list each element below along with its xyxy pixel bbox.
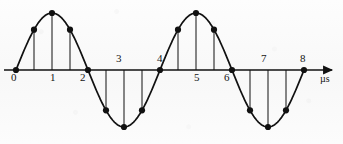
sample-point	[85, 67, 91, 73]
sample-point	[67, 27, 73, 33]
sample-point	[103, 107, 109, 113]
sample-point	[265, 124, 271, 130]
sample-point	[175, 27, 181, 33]
axis-unit-label: µs	[320, 74, 330, 84]
axis-tick-label-4: 4	[157, 53, 163, 64]
sample-point	[211, 27, 217, 33]
sample-point	[247, 107, 253, 113]
axis-tick-label-7: 7	[261, 53, 267, 64]
sample-point	[49, 10, 55, 16]
axis-tick-label-8: 8	[300, 53, 306, 64]
axis-tick-label-6: 6	[224, 72, 230, 83]
axis-tick-label-0: 0	[11, 72, 17, 83]
sample-point	[193, 10, 199, 16]
sample-point	[283, 107, 289, 113]
sample-point	[301, 67, 307, 73]
sampled-sine-figure: 012345678 µs	[0, 0, 343, 144]
sample-point	[139, 107, 145, 113]
sample-point	[121, 124, 127, 130]
axis-tick-label-1: 1	[50, 72, 56, 83]
axis-tick-label-2: 2	[80, 72, 86, 83]
axis-tick-label-3: 3	[116, 53, 122, 64]
sample-point	[31, 27, 37, 33]
axis-tick-label-5: 5	[194, 72, 200, 83]
sample-point	[157, 67, 163, 73]
